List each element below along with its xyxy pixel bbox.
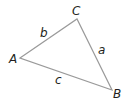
- side-label-b: b: [40, 26, 48, 40]
- vertex-label-b: B: [113, 87, 121, 101]
- vertex-label-c: C: [72, 4, 81, 18]
- vertex-label-a: A: [8, 52, 17, 66]
- side-label-c: c: [55, 73, 62, 87]
- side-label-a: a: [98, 43, 105, 57]
- triangle-diagram: A B C a b c: [0, 0, 128, 101]
